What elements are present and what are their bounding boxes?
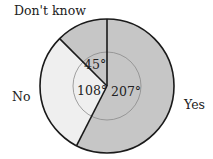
angle-label-yes: 207° [111, 84, 141, 99]
angle-label-no: 108° [77, 83, 107, 98]
pie-chart: Don't know No Yes 45° 108° 207° [0, 0, 213, 159]
label-no: No [12, 89, 30, 104]
angle-label-dont-know: 45° [84, 57, 106, 72]
label-dont-know: Don't know [14, 3, 86, 18]
label-yes: Yes [183, 97, 205, 112]
